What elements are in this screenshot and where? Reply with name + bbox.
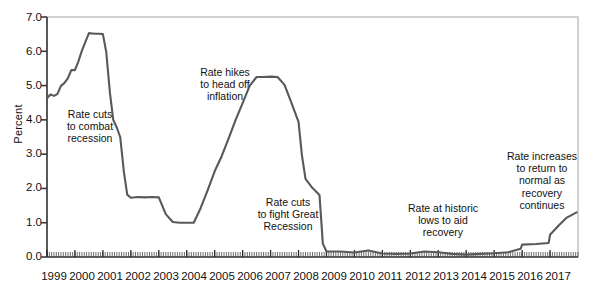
chart-plot-area <box>0 0 593 292</box>
chart-figure: Percent 7.0 6.0 5.0 4.0 3.0 2.0 1.0 0.0 … <box>0 0 593 292</box>
axis-lines <box>47 17 578 257</box>
data-line-federal-funds-rate <box>47 33 577 254</box>
plot-frame <box>47 17 578 257</box>
y-tick-marks <box>41 17 47 257</box>
